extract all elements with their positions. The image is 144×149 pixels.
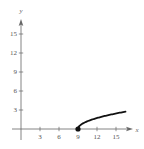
y-tick-label: 3 — [14, 106, 18, 114]
x-axis-label: x — [134, 126, 139, 134]
function-graph: 36912153691215 xy — [0, 0, 144, 149]
ticks: 36912153691215 — [10, 30, 120, 141]
y-tick-label: 9 — [14, 68, 18, 76]
y-axis-label: y — [18, 7, 23, 15]
x-tick-label: 6 — [57, 133, 61, 141]
closed-endpoint-dot — [75, 126, 80, 131]
y-tick-label: 6 — [14, 87, 18, 95]
x-tick-label: 15 — [113, 133, 121, 141]
function-curve — [78, 112, 126, 129]
axis-labels: xy — [18, 7, 139, 134]
x-tick-label: 9 — [76, 133, 80, 141]
y-tick-label: 15 — [10, 30, 18, 38]
y-tick-label: 12 — [10, 49, 18, 57]
axes — [12, 19, 133, 140]
x-tick-label: 3 — [38, 133, 42, 141]
x-tick-label: 12 — [94, 133, 102, 141]
